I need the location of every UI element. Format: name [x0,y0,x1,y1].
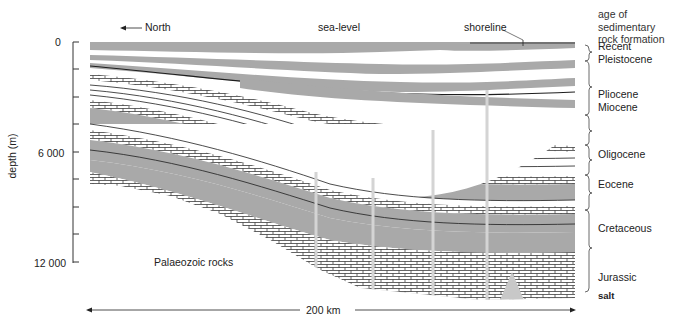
age-pliocene-miocene: Pliocene Miocene [598,88,638,113]
age-recent-pleistocene: Recent Pleistocene [598,40,652,65]
age-cretaceous: Cretaceous [598,222,652,235]
depth-tick-6000: 6 000 [38,147,64,159]
age-jurassic: Jurassic [598,271,637,284]
salt-label: salt [598,290,614,301]
north-arrow [120,26,142,31]
depth-tick-0: 0 [55,36,61,48]
palaeozoic-label: Palaeozoic rocks [154,256,233,268]
sea-level-label: sea-level [318,21,360,33]
north-label: North [145,21,171,33]
age-eocene: Eocene [598,178,634,191]
shoreline-label: shoreline [464,21,507,33]
cross-section-figure [0,0,687,322]
depth-axis-title: depth (m) [6,134,18,179]
depth-tick-12000: 12 000 [34,257,66,269]
depth-axis [73,42,79,263]
age-braces [585,45,592,292]
age-oligocene: Oligocene [598,148,645,161]
distance-label: 200 km [306,304,340,316]
